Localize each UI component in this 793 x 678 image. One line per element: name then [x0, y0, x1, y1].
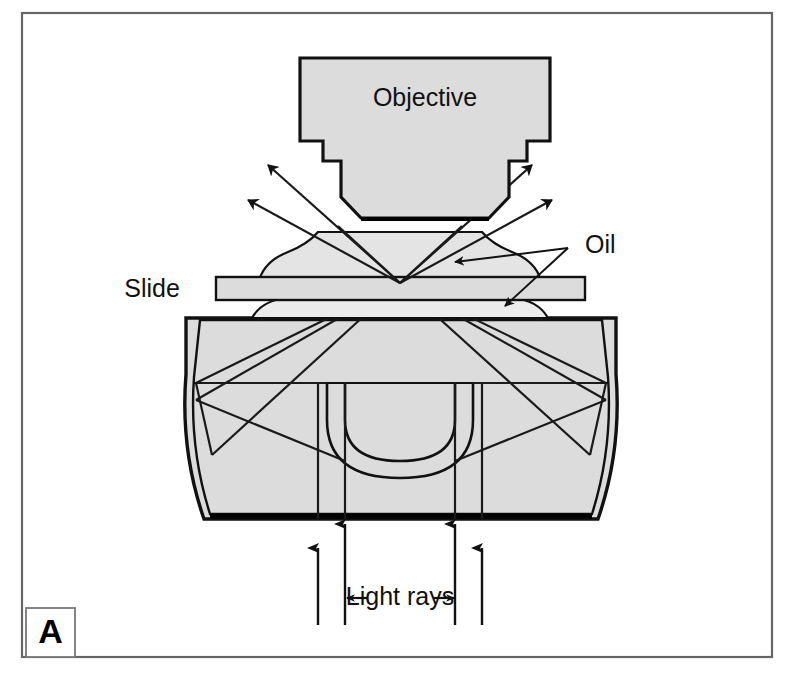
- figure-panel: Light rays Oil Objective Slide A: [0, 0, 793, 678]
- light-rays-label: Light rays: [346, 582, 454, 610]
- slide-label: Slide: [124, 274, 180, 302]
- slide: [216, 277, 585, 300]
- condenser: [185, 318, 617, 519]
- objective-label: Objective: [373, 83, 477, 111]
- oil-immersion-diagram: Light rays Oil Objective Slide A: [0, 0, 793, 678]
- oil-label: Oil: [585, 230, 616, 258]
- panel-letter: A: [38, 612, 63, 650]
